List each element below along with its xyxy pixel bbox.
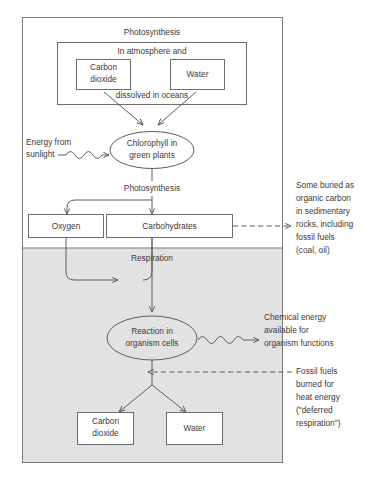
carbon-dioxide-box-top-line2: dioxide bbox=[90, 74, 117, 84]
chlorophyll-line1: Chlorophyll in bbox=[127, 138, 178, 148]
reservoir-bottom-label: dissolved in oceans bbox=[116, 90, 188, 100]
burial-annotation-line-2: in sedimentary bbox=[296, 206, 351, 216]
water-box-top-label: Water bbox=[187, 69, 209, 79]
energy-from-sunlight-line2: sunlight bbox=[26, 149, 55, 159]
photosynthesis-process-label: Photosynthesis bbox=[124, 183, 180, 193]
carbon-dioxide-box-bottom-line1: Carbon bbox=[92, 416, 120, 426]
chlorophyll-line2: green plants bbox=[129, 150, 175, 160]
reaction-line1: Reaction in bbox=[131, 326, 173, 336]
burial-annotation-line-3: rocks, including bbox=[296, 219, 354, 229]
burial-annotation-line-1: organic carbon bbox=[296, 193, 351, 203]
carbon-cycle-diagram: Photosynthesis In atmosphere and dissolv… bbox=[0, 0, 380, 478]
burial-annotation: Some buried as organic carbon in sedimen… bbox=[296, 180, 354, 255]
burial-annotation-line-0: Some buried as bbox=[296, 180, 354, 190]
oxygen-box-label: Oxygen bbox=[52, 221, 81, 231]
fossil-burn-line-2: heat energy bbox=[296, 392, 341, 402]
burial-annotation-line-5: (coal, oil) bbox=[296, 245, 330, 255]
fossil-burn-line-4: respiration") bbox=[296, 418, 341, 428]
photosynthesis-section-title: Photosynthesis bbox=[124, 27, 180, 37]
chemical-energy-line-0: Chemical energy bbox=[264, 312, 327, 322]
reaction-line2: organism cells bbox=[125, 338, 178, 348]
energy-from-sunlight-line1: Energy from bbox=[26, 137, 71, 147]
fossil-burn-line-3: ("deferred bbox=[296, 405, 333, 415]
chemical-energy-annotation: Chemical energy available for organism f… bbox=[264, 312, 334, 348]
chemical-energy-line-2: organism functions bbox=[264, 338, 334, 348]
water-box-bottom-label: Water bbox=[184, 423, 206, 433]
carbohydrates-box-label: Carbohydrates bbox=[142, 221, 196, 231]
chemical-energy-line-1: available for bbox=[264, 325, 309, 335]
fossil-burn-annotation: Fossil fuels burned for heat energy ("de… bbox=[296, 366, 341, 428]
burial-annotation-line-4: fossil fuels bbox=[296, 232, 335, 242]
reservoir-top-label: In atmosphere and bbox=[117, 46, 187, 56]
carbon-dioxide-box-top-line1: Carbon bbox=[90, 62, 118, 72]
fossil-burn-line-0: Fossil fuels bbox=[296, 366, 338, 376]
carbon-dioxide-box-bottom-line2: dioxide bbox=[92, 428, 119, 438]
fossil-burn-line-1: burned for bbox=[296, 379, 334, 389]
